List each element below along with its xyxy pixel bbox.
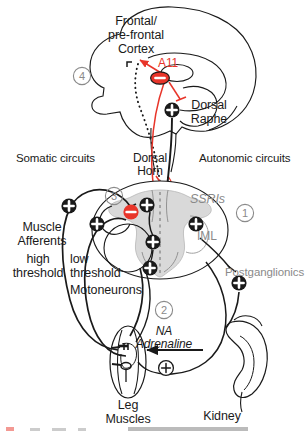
callout-label-1: 1: [242, 207, 248, 219]
label-dorsal-horn: Dorsal Horn: [133, 152, 167, 179]
label-leg-muscles: Leg Muscles: [105, 398, 150, 426]
label-autonomic-circuits: Autonomic circuits: [199, 152, 291, 165]
label-dorsal-raphe: Dorsal Raphe: [191, 98, 227, 126]
node-raphe-excitatory: [164, 102, 179, 117]
label-iml: IML: [197, 230, 217, 243]
label-motoneurons: Motoneurons: [70, 283, 142, 297]
node-adrenaline-excitatory: [159, 361, 174, 376]
label-kidney: Kidney: [203, 409, 241, 423]
neural-circuit-figure: Frontal/ pre-frontal Cortex A11 Dorsal R…: [0, 0, 307, 431]
label-somatic-circuits: Somatic circuits: [16, 152, 95, 165]
callout-label-4: 4: [79, 70, 85, 82]
callout-label-2: 2: [161, 304, 167, 316]
label-a11: A11: [158, 57, 178, 70]
label-ssris: SSRIs: [190, 192, 225, 206]
node-dorsal-horn-inhibitory: [123, 204, 138, 219]
label-na-adrenaline: NA Adrenaline: [136, 325, 192, 352]
node-a11-inhibitory: [151, 72, 170, 84]
node-dorsal-horn-excitatory: [139, 197, 154, 212]
callout-label-3: 3: [111, 190, 117, 202]
label-high-threshold: high threshold: [13, 252, 64, 280]
kidney-organ: [226, 316, 267, 412]
node-afferent-low-excitatory: [89, 216, 104, 231]
node-afferent-high-excitatory: [61, 198, 76, 213]
label-postganglionics: Postganglionics: [225, 266, 304, 279]
label-muscle-afferents: Muscle Afferents: [18, 220, 67, 248]
label-low-threshold: low threshold: [70, 252, 121, 280]
caption-fragment: [6, 427, 248, 431]
circuit-diagram-canvas: [0, 0, 307, 431]
label-frontal-prefrontal-cortex: Frontal/ pre-frontal Cortex: [108, 14, 164, 56]
